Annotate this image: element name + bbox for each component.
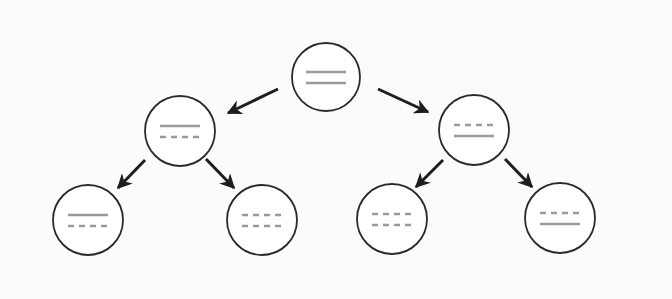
node-circle (227, 185, 297, 255)
tree-node-left-right (227, 185, 297, 255)
node-circle (292, 43, 360, 111)
tree-node-left (145, 96, 215, 166)
arrow-left-to-left-left (118, 160, 145, 188)
binary-tree-diagram (0, 0, 672, 299)
arrow-left-to-left-right (206, 159, 234, 188)
tree-node-right (439, 95, 509, 165)
tree-node-left-left (53, 185, 123, 255)
node-circle (439, 95, 509, 165)
tree-node-right-right (525, 183, 595, 253)
arrow-right-to-right-right (505, 159, 532, 187)
node-circle (145, 96, 215, 166)
arrow-root-to-right (378, 89, 428, 112)
node-circle (525, 183, 595, 253)
nodes-group (53, 43, 595, 255)
node-circle (53, 185, 123, 255)
node-circle (357, 184, 427, 254)
tree-node-right-left (357, 184, 427, 254)
arrow-right-to-right-left (416, 160, 443, 187)
tree-node-root (292, 43, 360, 111)
arrow-root-to-left (228, 89, 278, 113)
